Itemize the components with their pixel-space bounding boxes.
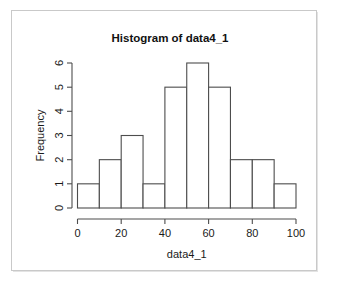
y-tick-label-2: 2	[53, 157, 65, 163]
y-axis: 0 1 2 3 4 5 6 Frequency	[34, 60, 72, 211]
x-tick-label-100: 100	[287, 227, 305, 239]
y-tick-label-1: 1	[53, 181, 65, 187]
histogram-screenshot: Histogram of data4_1 0 1 2 3 4 5 6 Frequ…	[0, 0, 340, 285]
x-tick-label-0: 0	[74, 227, 80, 239]
bar-bin-20-30	[121, 136, 143, 209]
bar-bin-40-50	[165, 87, 187, 208]
histogram-plot: Histogram of data4_1 0 1 2 3 4 5 6 Frequ…	[0, 0, 340, 285]
x-axis: 0 20 40 60 80 100 data4_1	[74, 219, 305, 260]
y-tick-label-0: 0	[53, 205, 65, 211]
y-tick-label-5: 5	[53, 84, 65, 90]
chart-title: Histogram of data4_1	[112, 32, 230, 44]
x-tick-label-40: 40	[159, 227, 171, 239]
y-tick-label-4: 4	[53, 108, 65, 114]
x-tick-label-20: 20	[115, 227, 127, 239]
bar-bin-50-60	[187, 63, 209, 208]
y-tick-label-6: 6	[53, 60, 65, 66]
bar-bin-70-80	[230, 160, 252, 208]
bar-bin-10-20	[99, 160, 121, 208]
bar-bin-60-70	[209, 87, 231, 208]
x-tick-label-80: 80	[246, 227, 258, 239]
x-tick-label-60: 60	[202, 227, 214, 239]
y-axis-title: Frequency	[34, 109, 46, 161]
histogram-bars	[78, 63, 297, 208]
bar-bin-80-90	[252, 160, 274, 208]
x-axis-title: data4_1	[167, 248, 207, 260]
bar-bin-30-40	[143, 184, 165, 208]
bar-bin-90-100	[274, 184, 296, 208]
y-tick-label-3: 3	[53, 132, 65, 138]
bar-bin-0-10	[78, 184, 100, 208]
